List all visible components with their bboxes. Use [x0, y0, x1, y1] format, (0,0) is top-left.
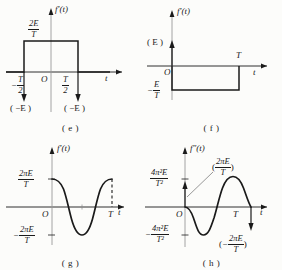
impulse-origin-label: ( 2πE T )	[212, 157, 234, 178]
y-axis-arrow	[183, 147, 188, 154]
rectangular-pulse-curve	[6, 41, 110, 72]
y-value-denominator: T	[18, 180, 34, 190]
y-axis-label: f'(t)	[177, 6, 190, 16]
panel-caption-g: ( g )	[0, 258, 141, 268]
panel-g-plot	[0, 135, 141, 270]
y-value-label: − E T	[147, 80, 160, 101]
panel-h: 4π²E T² − 4π²E T² ( 2πE T )	[141, 135, 282, 270]
panel-f-plot	[141, 0, 282, 135]
impulse-origin-arrow	[169, 40, 174, 48]
impulse-left-label: ( −E )	[10, 104, 31, 113]
tick-denominator: 2	[17, 86, 24, 96]
x-tick-label-negative-half-T: − T 2	[11, 75, 24, 96]
x-axis-label: t	[105, 73, 108, 83]
y-axis-arrow	[170, 10, 175, 17]
panel-caption-f: ( f )	[141, 123, 282, 133]
impulse-right-label: ( −E )	[64, 104, 85, 113]
rectangular-pulse-curve	[172, 66, 239, 90]
impulse-T-arrow	[248, 223, 253, 231]
panel-h-plot	[141, 135, 282, 270]
panel-e-plot	[0, 0, 141, 135]
panel-f: ( E ) O − E T T t f'(t) ( f )	[141, 0, 282, 135]
impulse-denominator: T	[215, 168, 231, 178]
y-value-denominator: T	[19, 236, 35, 246]
x-axis-label: t	[118, 207, 121, 217]
y-axis-arrow	[49, 8, 54, 15]
impulse-right-arrow	[75, 94, 80, 102]
panel-caption-e: ( e )	[0, 123, 141, 133]
origin-label: O	[176, 209, 183, 219]
origin-label: O	[42, 209, 49, 219]
y-axis-label: f″(t)	[190, 143, 205, 153]
y-value-label-top: 2πE T	[18, 169, 34, 190]
tick-denominator: 2	[62, 86, 69, 96]
y-value-label: 2E T	[28, 19, 39, 40]
y-value-label-bottom: − 2πE T	[13, 225, 35, 246]
impulse-denominator: T	[228, 245, 244, 255]
y-axis-label: f'(t)	[57, 143, 70, 153]
impulse-T-label: ( − 2πE T )	[219, 234, 247, 255]
sine-curve	[185, 177, 251, 236]
impulse-origin-arrow	[182, 181, 187, 189]
origin-label: O	[164, 67, 171, 77]
y-value-label-bottom: − 4π²E T²	[145, 224, 169, 245]
y-value-denominator: T²	[151, 235, 169, 245]
panel-e: 2E T O − T 2 T 2 t f'(t)	[0, 0, 141, 135]
y-value-label-top: 4π²E T²	[150, 168, 168, 189]
y-value-denominator: T	[28, 30, 39, 40]
panel-caption-h: ( h )	[141, 258, 282, 268]
x-tick-label-T: T	[236, 50, 241, 60]
x-axis-label: t	[253, 67, 256, 77]
x-tick-label-T: T	[108, 209, 113, 219]
figure-sheet: 2E T O − T 2 T 2 t f'(t)	[0, 0, 282, 270]
panel-g: 2πE T − 2πE T O T t f'(t) ( g )	[0, 135, 141, 270]
y-value-denominator: T	[153, 91, 160, 101]
x-axis-label: t	[260, 207, 263, 217]
y-axis-arrow	[50, 147, 55, 154]
x-tick-label-half-T: T 2	[62, 75, 69, 96]
x-tick-label-T: T	[233, 209, 238, 219]
x-axis-arrow	[261, 64, 267, 69]
y-value-denominator: T²	[150, 179, 168, 189]
origin-label: O	[41, 74, 48, 84]
impulse-origin-leader-line	[187, 172, 213, 197]
x-axis-arrow	[116, 70, 122, 75]
y-axis-label: f'(t)	[55, 4, 68, 14]
impulse-origin-label: ( E )	[147, 38, 163, 47]
